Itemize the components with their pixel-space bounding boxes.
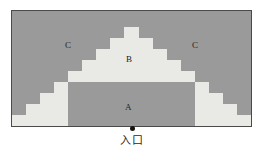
entrance-marker-dot [130, 126, 135, 131]
region-label-b: B [126, 55, 132, 64]
region-label-c-left: C [65, 41, 71, 50]
region-label-c-right: C [192, 41, 198, 50]
diagram-canvas: C B C A 入口 [0, 0, 263, 161]
figure-frame: C B C A [11, 10, 252, 127]
entrance-label: 入口 [0, 135, 263, 147]
region-label-a: A [125, 103, 132, 112]
